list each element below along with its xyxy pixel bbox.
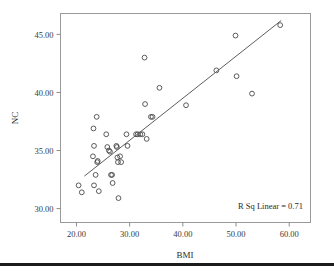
data-point <box>278 23 283 28</box>
x-axis-ticks <box>76 223 289 227</box>
data-point <box>124 132 129 137</box>
y-tick-label-45.00: 45.00 <box>34 30 53 40</box>
y-tick-label-40.00: 40.00 <box>34 88 53 98</box>
data-point <box>92 143 97 148</box>
plot-frame <box>61 14 311 223</box>
plot-border <box>61 14 311 223</box>
data-point <box>125 143 130 148</box>
data-point <box>76 183 81 188</box>
data-point <box>233 33 238 38</box>
linear-fit-line <box>84 20 281 176</box>
data-point <box>116 196 121 201</box>
data-point <box>96 189 101 194</box>
data-point <box>92 183 97 188</box>
data-point <box>143 102 148 107</box>
data-point <box>79 190 84 195</box>
data-point <box>93 172 98 177</box>
y-tick-label-30.00: 30.00 <box>34 204 53 214</box>
bottom-divider-rule <box>0 263 334 266</box>
y-axis-ticks <box>57 34 61 208</box>
y-axis-tick-labels: 30.0035.0040.0045.00 <box>34 30 53 214</box>
x-tick-label-60.00: 60.00 <box>280 229 299 239</box>
data-point <box>110 181 115 186</box>
x-axis-title: BMI <box>176 250 193 260</box>
y-tick-label-35.00: 35.00 <box>34 146 53 156</box>
data-point <box>234 74 239 79</box>
y-axis-title: NC <box>10 112 20 125</box>
x-tick-label-50.00: 50.00 <box>226 229 245 239</box>
data-point <box>250 91 255 96</box>
r-squared-annotation: R Sq Linear = 0.71 <box>238 201 303 211</box>
scatterplot-figure: 20.0030.0040.0050.0060.00 30.0035.0040.0… <box>0 0 334 272</box>
scatterplot-canvas: 20.0030.0040.0050.0060.00 30.0035.0040.0… <box>0 0 334 272</box>
x-tick-label-20.00: 20.00 <box>67 229 86 239</box>
data-point <box>144 137 149 142</box>
data-point <box>157 85 162 90</box>
data-point <box>104 132 109 137</box>
regression-line <box>84 20 281 176</box>
data-point <box>142 55 147 60</box>
x-axis-tick-labels: 20.0030.0040.0050.0060.00 <box>67 229 299 239</box>
x-tick-label-30.00: 30.00 <box>120 229 139 239</box>
data-point <box>91 126 96 131</box>
data-point <box>184 103 189 108</box>
data-point <box>108 149 113 154</box>
data-point <box>94 114 99 119</box>
x-tick-label-40.00: 40.00 <box>173 229 192 239</box>
data-point <box>119 160 124 165</box>
data-point <box>91 154 96 159</box>
data-points <box>76 23 282 201</box>
